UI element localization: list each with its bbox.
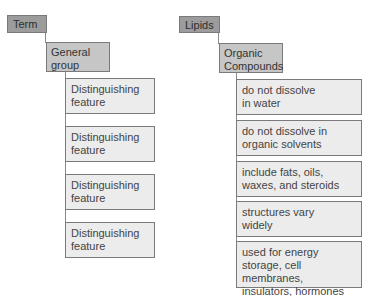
lipids-term-box: Lipids: [179, 16, 220, 33]
feature-box: Distinguishing feature: [65, 126, 155, 162]
term-box: Term: [7, 15, 47, 33]
general-group-box: General group: [46, 42, 110, 72]
organic-compounds-box: Organic Compounds: [219, 43, 283, 73]
feature-box: Distinguishing feature: [65, 222, 155, 258]
feature-box-examples: include fats, oils, waxes, and steroids: [236, 161, 362, 197]
feature-box: Distinguishing feature: [65, 174, 155, 210]
feature-box-insoluble-water: do not dissolve in water: [236, 79, 362, 115]
feature-box: Distinguishing feature: [65, 78, 155, 114]
feature-box-insoluble-organic: do not dissolve in organic solvents: [236, 120, 362, 156]
feature-box-structures: structures vary widely: [236, 201, 362, 237]
feature-box-uses: used for energy storage, cell membranes,…: [236, 241, 362, 288]
